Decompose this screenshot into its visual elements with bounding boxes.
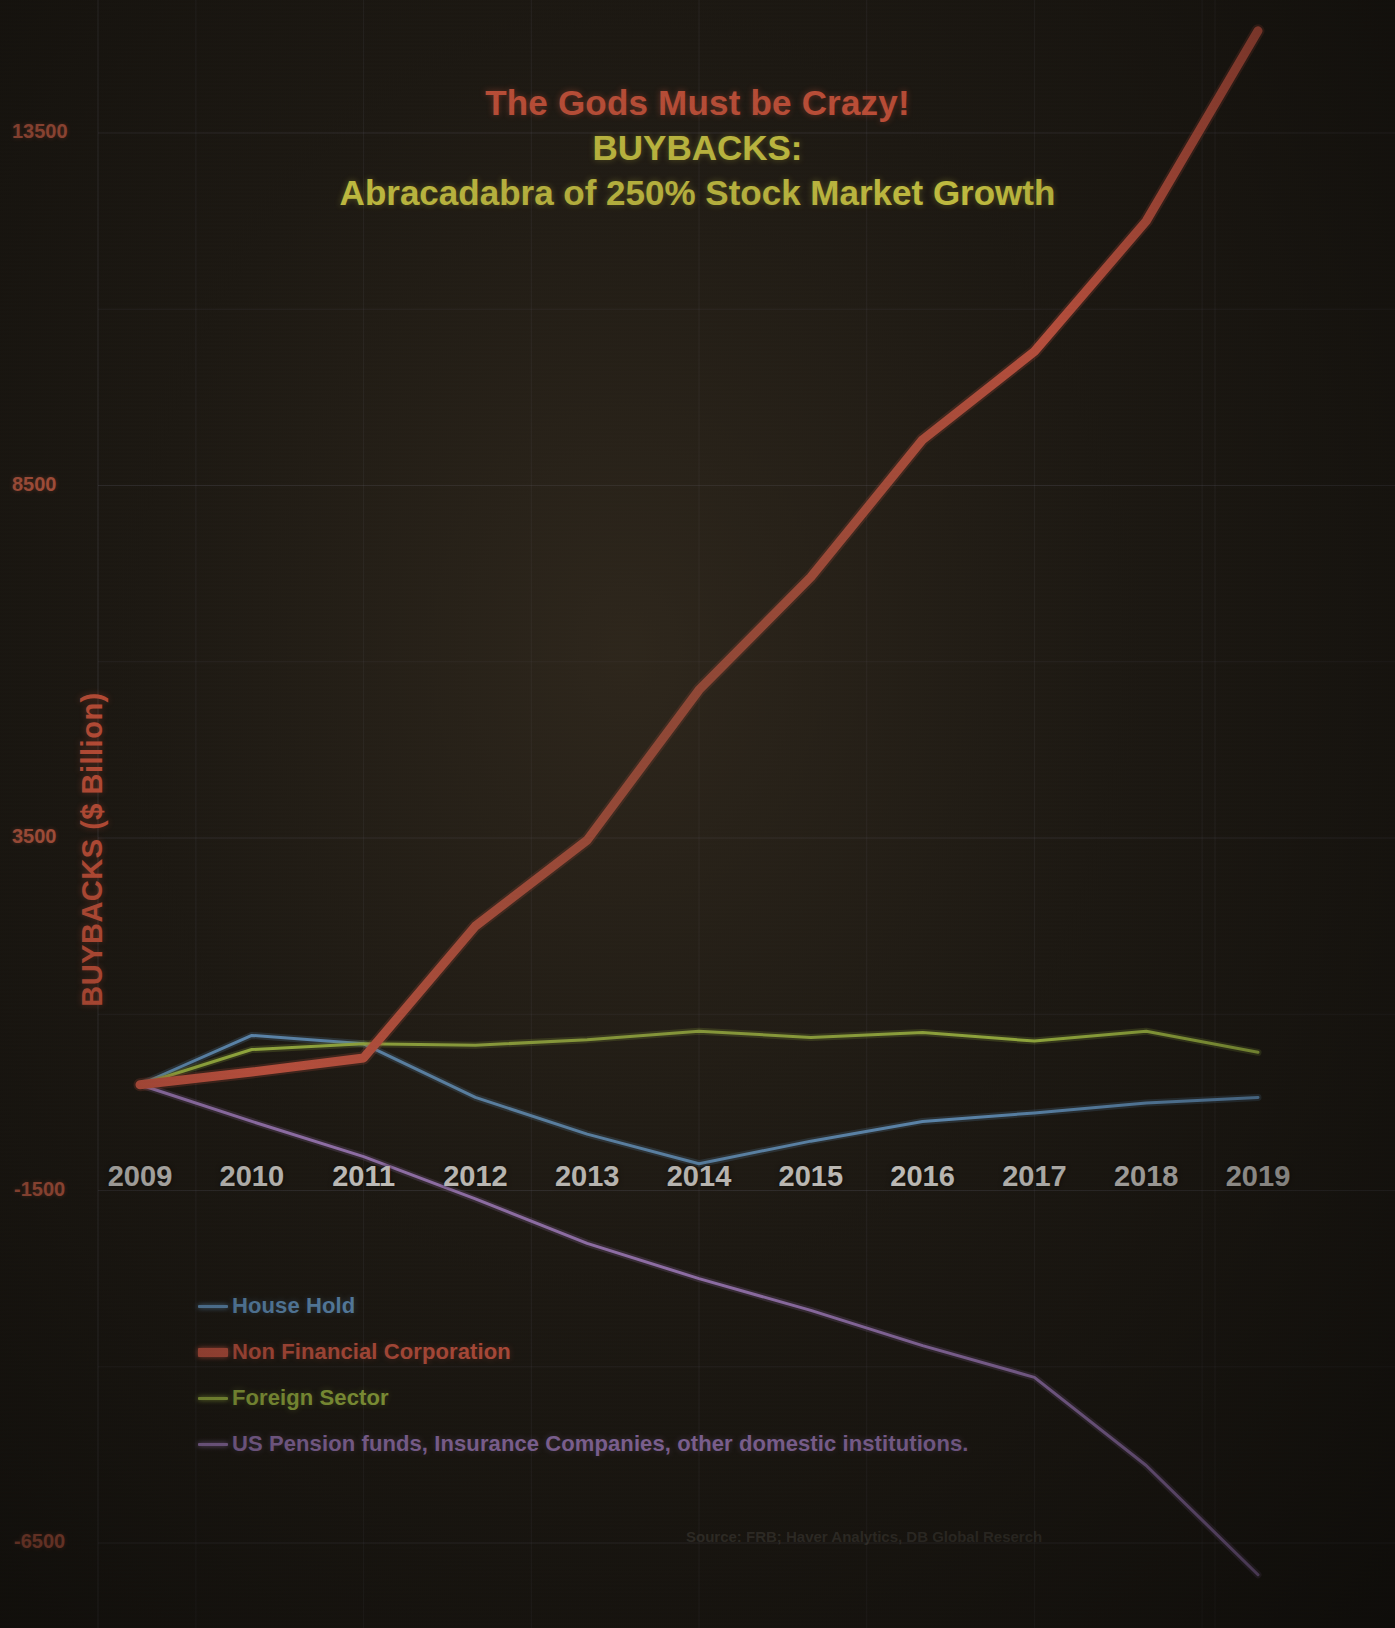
x-tick-label: 2016 (890, 1160, 955, 1193)
legend-item-label: US Pension funds, Insurance Companies, o… (232, 1431, 968, 1457)
legend-item-label: Foreign Sector (232, 1385, 389, 1411)
legend-item[interactable]: House Hold (198, 1283, 968, 1329)
y-tick-label: -1500 (14, 1178, 65, 1201)
x-tick-label: 2014 (667, 1160, 732, 1193)
x-tick-label: 2009 (108, 1160, 173, 1193)
title-line-buybacks: BUYBACKS: (0, 125, 1395, 171)
title-line-hook: The Gods Must be Crazy! (0, 82, 1395, 125)
y-tick-label: 13500 (12, 120, 68, 143)
legend-color-swatch (198, 1443, 228, 1446)
chart-title-block: The Gods Must be Crazy! BUYBACKS: Abraca… (0, 82, 1395, 216)
x-tick-label: 2012 (443, 1160, 508, 1193)
legend-color-swatch (198, 1397, 228, 1400)
legend-item-label: Non Financial Corporation (232, 1339, 511, 1365)
x-tick-label: 2013 (555, 1160, 620, 1193)
x-tick-label: 2018 (1114, 1160, 1179, 1193)
y-tick-label: 3500 (12, 825, 57, 848)
legend-item[interactable]: Non Financial Corporation (198, 1329, 968, 1375)
legend-item[interactable]: Foreign Sector (198, 1375, 968, 1421)
y-tick-label: -6500 (14, 1530, 65, 1553)
y-tick-label: 8500 (12, 473, 57, 496)
chart-legend: House HoldNon Financial CorporationForei… (198, 1283, 968, 1467)
legend-item-label: House Hold (232, 1293, 355, 1319)
legend-item[interactable]: US Pension funds, Insurance Companies, o… (198, 1421, 968, 1467)
x-tick-label: 2017 (1002, 1160, 1067, 1193)
x-tick-label: 2015 (779, 1160, 844, 1193)
legend-color-swatch (198, 1305, 228, 1308)
x-tick-label: 2019 (1226, 1160, 1291, 1193)
source-note: Source: FRB; Haver Analytics, DB Global … (686, 1528, 1042, 1545)
y-axis-title: BUYBACKS ($ Billion) (76, 640, 109, 1060)
x-tick-label: 2011 (332, 1160, 395, 1193)
legend-color-swatch (198, 1348, 228, 1357)
title-line-subtitle: Abracadabra of 250% Stock Market Growth (0, 170, 1395, 216)
x-tick-label: 2010 (220, 1160, 285, 1193)
